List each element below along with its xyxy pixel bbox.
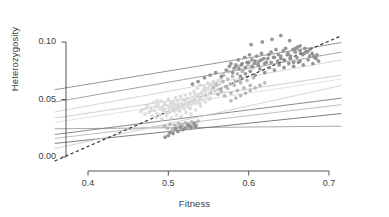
data-point — [229, 99, 233, 103]
data-point — [276, 59, 280, 63]
data-point — [150, 109, 154, 113]
data-point — [226, 86, 230, 90]
data-point — [179, 125, 183, 129]
data-point — [274, 48, 278, 52]
data-point — [263, 71, 267, 75]
data-point — [239, 81, 243, 85]
data-point — [179, 115, 183, 119]
y-tick-label: 0.05 — [26, 94, 56, 104]
data-point — [172, 102, 176, 106]
data-point — [269, 61, 273, 65]
data-point — [165, 114, 169, 118]
data-point — [268, 66, 272, 70]
data-point — [282, 58, 286, 62]
data-point — [203, 100, 207, 104]
data-point — [293, 46, 297, 50]
x-tick-label: 0.6 — [234, 178, 264, 188]
data-point — [183, 107, 187, 111]
data-point — [277, 63, 281, 67]
data-point — [166, 97, 170, 101]
data-point — [284, 46, 288, 50]
data-point — [203, 87, 207, 91]
data-point — [200, 98, 204, 102]
data-point — [253, 86, 257, 90]
data-point — [302, 52, 306, 56]
data-point — [245, 78, 249, 82]
data-point — [177, 122, 181, 126]
data-point — [287, 62, 291, 66]
data-point — [228, 64, 232, 68]
data-point — [208, 73, 212, 77]
data-point — [166, 126, 170, 130]
data-point — [193, 98, 197, 102]
y-axis-label-wrapper: Heterozygosity — [9, 0, 23, 119]
data-point — [160, 117, 164, 121]
data-point — [242, 86, 246, 90]
data-point — [269, 50, 273, 54]
scatter-plot-figure: Fitness Heterozygosity 0.40.50.60.70.000… — [0, 0, 389, 217]
data-point — [233, 80, 237, 84]
data-point — [194, 125, 198, 129]
data-point — [156, 103, 160, 107]
data-point — [153, 109, 157, 113]
data-point — [306, 58, 310, 62]
data-point — [237, 67, 241, 71]
data-point — [199, 83, 203, 87]
data-point — [229, 91, 233, 95]
data-point — [236, 58, 240, 62]
data-point — [256, 63, 260, 67]
data-point — [248, 84, 252, 88]
data-point — [183, 127, 187, 131]
data-point — [248, 53, 252, 57]
y-axis-label: Heterozygosity — [9, 0, 20, 119]
data-point — [207, 97, 211, 101]
x-tick-label: 0.4 — [73, 178, 103, 188]
data-point — [297, 61, 301, 65]
data-point — [163, 135, 167, 139]
data-point — [159, 99, 163, 103]
data-point — [220, 89, 224, 93]
data-point — [183, 98, 187, 102]
data-point — [203, 76, 207, 80]
data-point — [234, 96, 238, 100]
data-point — [285, 53, 289, 57]
data-point — [143, 112, 147, 116]
data-point — [312, 54, 316, 58]
data-point — [170, 116, 174, 120]
data-point — [158, 113, 162, 117]
data-point — [317, 59, 321, 63]
data-point — [216, 78, 220, 82]
data-point — [228, 82, 232, 86]
data-point — [315, 53, 319, 57]
data-point — [168, 131, 172, 135]
data-point — [215, 83, 219, 87]
data-point — [166, 111, 170, 115]
data-point — [253, 73, 257, 77]
data-point — [244, 91, 248, 95]
data-point — [292, 61, 296, 65]
data-point — [218, 82, 222, 86]
data-point — [214, 71, 218, 75]
data-point — [298, 49, 302, 53]
data-point — [174, 96, 178, 100]
data-point — [216, 92, 220, 96]
data-point — [248, 89, 252, 93]
data-point — [236, 72, 240, 76]
data-point — [194, 108, 198, 112]
data-point — [232, 84, 236, 88]
data-point — [250, 58, 254, 62]
data-point — [247, 61, 251, 65]
data-point — [188, 107, 192, 111]
data-point — [220, 75, 224, 79]
data-point — [260, 58, 264, 62]
data-point — [279, 34, 283, 38]
x-axis-label: Fitness — [0, 198, 389, 209]
data-point — [244, 66, 248, 70]
data-point — [258, 84, 262, 88]
data-point — [144, 106, 148, 110]
data-point — [308, 48, 312, 52]
data-point — [226, 77, 230, 81]
y-tick-label: 0.00 — [26, 151, 56, 161]
data-point — [188, 124, 192, 128]
x-tick-label: 0.7 — [314, 178, 344, 188]
